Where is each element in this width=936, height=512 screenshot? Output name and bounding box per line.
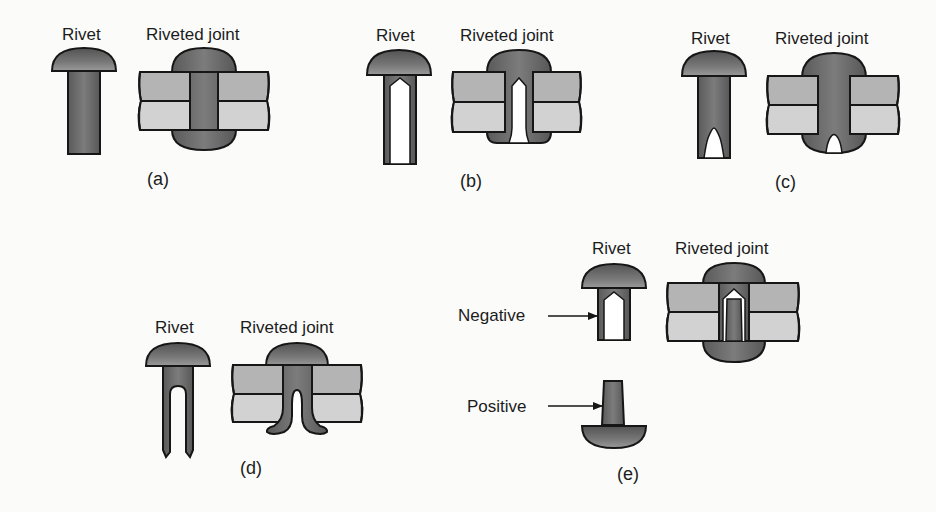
panel-d-caption: (d) <box>240 459 262 477</box>
riveted-joint-a-icon <box>139 48 270 150</box>
panel-e <box>548 263 799 448</box>
panel-b <box>367 50 581 164</box>
panel-a-joint-label: Riveted joint <box>146 26 240 43</box>
panel-b-rivet-label: Rivet <box>376 27 415 44</box>
panel-c-joint-label: Riveted joint <box>775 30 869 47</box>
panel-c-rivet-label: Rivet <box>691 30 730 47</box>
panel-d-rivet-label: Rivet <box>155 319 194 336</box>
panel-e-rivet-label: Rivet <box>592 240 631 257</box>
positive-rivet-part-icon <box>582 381 646 448</box>
riveted-joint-c-icon <box>767 53 900 153</box>
panel-b-joint-label: Riveted joint <box>460 27 554 44</box>
panel-c-caption: (c) <box>775 173 796 191</box>
positive-callout-label: Positive <box>467 398 527 415</box>
tubular-rivet-icon <box>367 50 431 164</box>
semi-tubular-rivet-icon <box>682 51 746 158</box>
riveted-joint-e-icon <box>667 263 800 362</box>
panel-a <box>52 48 269 154</box>
negative-rivet-part-icon <box>582 264 646 340</box>
panel-a-caption: (a) <box>147 170 169 188</box>
panel-d <box>146 343 362 457</box>
rivet-types-figure: Rivet Riveted joint (a) Rivet Riveted jo… <box>0 0 936 512</box>
negative-callout-label: Negative <box>458 307 525 324</box>
panel-b-caption: (b) <box>460 172 482 190</box>
panel-e-joint-label: Riveted joint <box>675 240 769 257</box>
panel-d-joint-label: Riveted joint <box>240 319 334 336</box>
solid-rivet-icon <box>52 48 116 154</box>
bifurcated-rivet-icon <box>146 343 210 457</box>
riveted-joint-d-icon <box>232 343 363 434</box>
panel-e-caption: (e) <box>617 465 639 483</box>
panel-a-rivet-label: Rivet <box>62 26 101 43</box>
panel-c <box>682 51 899 158</box>
riveted-joint-b-icon <box>452 50 582 143</box>
